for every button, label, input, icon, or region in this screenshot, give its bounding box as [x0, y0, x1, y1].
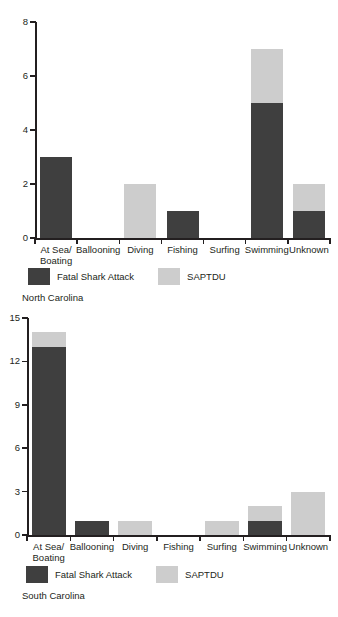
- x-axis-label-line: Boating: [23, 552, 74, 563]
- y-axis-tick-label: 6: [0, 443, 20, 453]
- x-axis-tick: [329, 535, 331, 541]
- bar-ballooning: [75, 521, 109, 535]
- bar-segment-saptdu: [248, 506, 282, 520]
- y-axis-tick-label: 3: [0, 487, 20, 497]
- bar-segment-fatal-shark-attack: [248, 521, 282, 535]
- chart-legend: Fatal Shark Attack SAPTDU: [26, 566, 224, 583]
- y-axis-tick-label: 9: [0, 400, 20, 410]
- y-axis-tick-label: 15: [0, 313, 20, 323]
- legend-item-saptdu: SAPTDU: [156, 566, 224, 583]
- y-axis-tick: [22, 491, 28, 493]
- page-footer-partial-text: [0, 608, 338, 617]
- y-axis-tick: [22, 317, 28, 319]
- x-axis-line: [27, 535, 330, 537]
- bar-diving: [118, 521, 152, 535]
- legend-label-saptdu: SAPTDU: [185, 569, 224, 580]
- y-axis-tick-label: 12: [0, 356, 20, 366]
- bar-at-sea-boating: [32, 332, 66, 535]
- legend-label-fatal-shark-attack: Fatal Shark Attack: [55, 569, 132, 580]
- legend-item-fatal-shark-attack: Fatal Shark Attack: [26, 566, 132, 583]
- x-axis-label-line: Unknown: [283, 541, 334, 552]
- y-axis-line: [27, 318, 29, 537]
- bar-segment-saptdu: [205, 521, 239, 535]
- y-axis-tick: [22, 404, 28, 406]
- x-axis-category-label: Unknown: [283, 541, 334, 552]
- bar-segment-fatal-shark-attack: [75, 521, 109, 535]
- chart-south-carolina: 03691215At Sea/BoatingBallooningDivingFi…: [0, 310, 338, 617]
- plot-area-south-carolina: 03691215At Sea/BoatingBallooningDivingFi…: [0, 0, 338, 617]
- bar-swimming: [248, 506, 282, 535]
- bar-unknown: [291, 492, 325, 535]
- chart-caption: South Carolina: [22, 590, 85, 601]
- bar-segment-fatal-shark-attack: [32, 347, 66, 535]
- bar-segment-saptdu: [118, 521, 152, 535]
- y-axis-tick-label: 0: [0, 530, 20, 540]
- bar-surfing: [205, 521, 239, 535]
- bar-segment-saptdu: [291, 492, 325, 535]
- legend-swatch-saptdu: [156, 566, 178, 583]
- bar-segment-saptdu: [32, 332, 66, 346]
- legend-swatch-fatal-shark-attack: [26, 566, 48, 583]
- y-axis-tick: [22, 361, 28, 363]
- y-axis-tick: [22, 447, 28, 449]
